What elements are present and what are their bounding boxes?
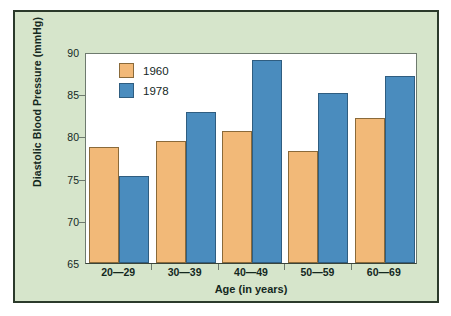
chart-figure: Diastolic Blood Pressure (mmHg) 65707580… <box>0 0 451 316</box>
y-axis-tick-labels: 657075808590 <box>53 53 79 264</box>
x-axis-tick-label: 40—49 <box>234 266 268 278</box>
legend-label-1978: 1978 <box>143 85 169 97</box>
bar-1960-30—39 <box>156 141 186 263</box>
legend-swatch-1960 <box>119 63 134 78</box>
y-axis-tick-label: 85 <box>57 89 79 101</box>
legend-item-1960: 1960 <box>119 63 169 78</box>
legend-swatch-1978 <box>119 83 134 98</box>
x-axis-title: Age (in years) <box>85 283 417 295</box>
plot-area: 19601978 <box>85 53 417 264</box>
bar-1978-20—29 <box>119 176 149 263</box>
y-axis-tick-label: 70 <box>57 216 79 228</box>
x-axis-tick-label: 50—59 <box>300 266 334 278</box>
x-axis-tick-labels: 20—2930—3940—4950—5960—69 <box>85 266 417 282</box>
bar-1978-50—59 <box>318 93 348 263</box>
bar-1978-40—49 <box>252 60 282 263</box>
bar-1960-60—69 <box>355 118 385 263</box>
bar-1978-60—69 <box>385 76 415 263</box>
y-axis-tick-label: 65 <box>57 258 79 270</box>
legend-item-1978: 1978 <box>119 83 169 98</box>
legend-label-1960: 1960 <box>143 65 169 77</box>
chart-legend: 19601978 <box>119 63 169 98</box>
chart-frame: Diastolic Blood Pressure (mmHg) 65707580… <box>13 10 439 303</box>
y-axis-title: Diastolic Blood Pressure (mmHg) <box>31 0 43 218</box>
bar-1960-50—59 <box>288 151 318 263</box>
bar-1960-40—49 <box>222 131 252 263</box>
x-axis-tick-label: 20—29 <box>101 266 135 278</box>
bar-1978-30—39 <box>186 112 216 263</box>
x-axis-tick-label: 30—39 <box>168 266 202 278</box>
y-axis-tick-label: 80 <box>57 131 79 143</box>
y-axis-tick-label: 90 <box>57 47 79 59</box>
bar-1960-20—29 <box>89 147 119 263</box>
y-axis-tick-label: 75 <box>57 174 79 186</box>
x-axis-tick-label: 60—69 <box>367 266 401 278</box>
